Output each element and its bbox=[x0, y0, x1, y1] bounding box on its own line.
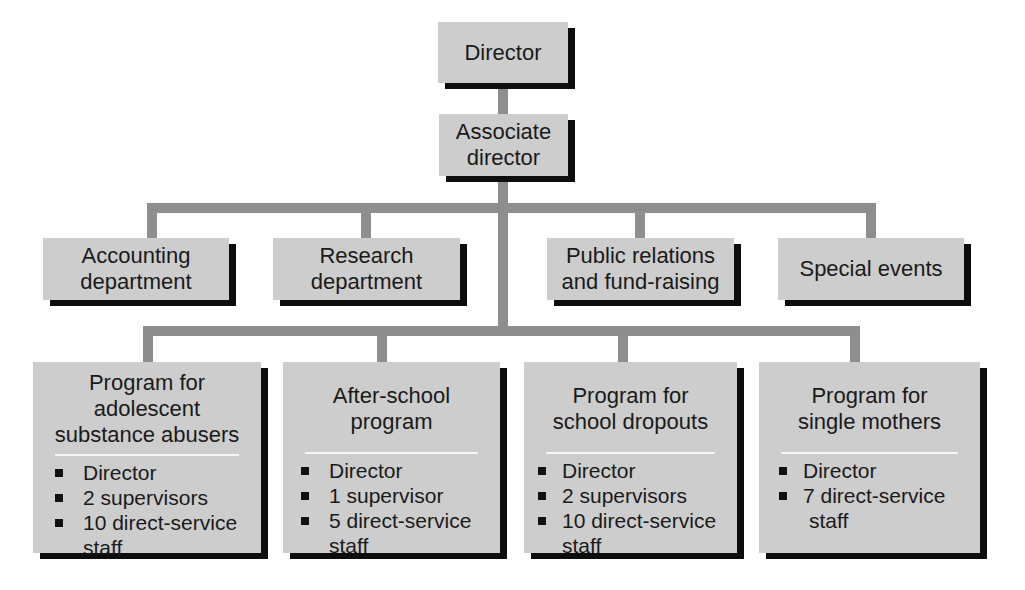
research-label-line1: Research bbox=[319, 243, 413, 269]
staff-text-continued: staff bbox=[803, 509, 848, 532]
accounting-label-line1: Accounting bbox=[82, 243, 191, 269]
program-divider bbox=[55, 454, 239, 456]
staff-text: Director bbox=[329, 459, 403, 482]
connector-departments-bar bbox=[147, 203, 876, 213]
staff-text: Director bbox=[803, 459, 877, 482]
associate-director-label-line1: Associate bbox=[456, 119, 551, 145]
square-bullet-icon bbox=[779, 467, 787, 475]
staff-text: Director bbox=[562, 459, 636, 482]
staff-item: 5 direct-servicestaff bbox=[299, 508, 500, 558]
director-label: Director bbox=[464, 40, 541, 66]
connector-program-afterschool bbox=[377, 326, 387, 363]
connector-program-mothers bbox=[850, 326, 860, 363]
program-title-line: Program for bbox=[530, 383, 731, 409]
staff-text-continued: staff bbox=[329, 534, 368, 557]
staff-text-continued: staff bbox=[562, 534, 601, 557]
staff-text: 10 direct-service bbox=[83, 511, 237, 534]
public-relations-label-line2: and fund-raising bbox=[562, 269, 720, 295]
program-box-single-mothers: Program for single mothers Director 7 di… bbox=[759, 362, 980, 553]
program-divider bbox=[305, 452, 478, 454]
program-title: After-school program bbox=[283, 370, 500, 435]
connector-accounting bbox=[147, 203, 157, 239]
staff-text: 1 supervisor bbox=[329, 484, 443, 507]
square-bullet-icon bbox=[55, 519, 63, 527]
square-bullet-icon bbox=[301, 467, 309, 475]
research-department-box: Research department bbox=[273, 238, 460, 300]
staff-item: Director bbox=[536, 458, 737, 483]
staff-item: 7 direct-servicestaff bbox=[777, 483, 980, 533]
connector-research bbox=[361, 203, 371, 239]
staff-text: 2 supervisors bbox=[83, 486, 208, 509]
staff-text: Director bbox=[83, 461, 157, 484]
staff-item: 2 supervisors bbox=[53, 485, 261, 510]
staff-item: 10 direct-servicestaff bbox=[53, 510, 261, 560]
staff-list: Director 1 supervisor 5 direct-servicest… bbox=[283, 458, 500, 558]
staff-text: 2 supervisors bbox=[562, 484, 687, 507]
connector-public-relations bbox=[635, 203, 645, 239]
square-bullet-icon bbox=[55, 494, 63, 502]
accounting-label-line2: department bbox=[80, 269, 191, 295]
program-box-substance-abusers: Program for adolescent substance abusers… bbox=[33, 362, 261, 553]
program-box-school-dropouts: Program for school dropouts Director 2 s… bbox=[524, 362, 737, 553]
public-relations-box: Public relations and fund-raising bbox=[547, 238, 734, 300]
staff-text-continued: staff bbox=[83, 536, 122, 559]
staff-list: Director 2 supervisors 10 direct-service… bbox=[524, 458, 737, 558]
program-title-line: substance abusers bbox=[39, 422, 255, 448]
public-relations-label-line1: Public relations bbox=[566, 243, 715, 269]
associate-director-label-line2: director bbox=[467, 145, 540, 171]
staff-item: 2 supervisors bbox=[536, 483, 737, 508]
square-bullet-icon bbox=[301, 517, 309, 525]
program-title-line: adolescent bbox=[39, 396, 255, 422]
program-title-line: After-school bbox=[289, 383, 494, 409]
program-title-line: single mothers bbox=[765, 409, 974, 435]
staff-list: Director 7 direct-servicestaff bbox=[759, 458, 980, 533]
accounting-department-box: Accounting department bbox=[43, 238, 229, 300]
connector-program-dropouts bbox=[618, 326, 628, 363]
connector-director-associate bbox=[498, 83, 508, 115]
program-title: Program for adolescent substance abusers bbox=[33, 370, 261, 448]
staff-text: 5 direct-service bbox=[329, 509, 471, 532]
connector-special-events bbox=[866, 203, 876, 239]
director-box: Director bbox=[438, 22, 568, 83]
program-title-line: program bbox=[289, 409, 494, 435]
square-bullet-icon bbox=[538, 492, 546, 500]
square-bullet-icon bbox=[55, 469, 63, 477]
square-bullet-icon bbox=[538, 517, 546, 525]
square-bullet-icon bbox=[538, 467, 546, 475]
program-title-line: Program for bbox=[765, 383, 974, 409]
staff-list: Director 2 supervisors 10 direct-service… bbox=[33, 460, 261, 560]
program-divider bbox=[546, 452, 715, 454]
connector-programs-bar bbox=[143, 326, 860, 336]
program-title: Program for single mothers bbox=[759, 370, 980, 435]
program-box-after-school: After-school program Director 1 supervis… bbox=[283, 362, 500, 553]
square-bullet-icon bbox=[779, 492, 787, 500]
special-events-box: Special events bbox=[778, 238, 964, 300]
staff-text: 10 direct-service bbox=[562, 509, 716, 532]
staff-item: 1 supervisor bbox=[299, 483, 500, 508]
program-title-line: school dropouts bbox=[530, 409, 731, 435]
staff-item: 10 direct-servicestaff bbox=[536, 508, 737, 558]
associate-director-box: Associate director bbox=[439, 114, 568, 176]
program-divider bbox=[781, 452, 958, 454]
staff-text: 7 direct-service bbox=[803, 484, 945, 507]
program-title-line: Program for bbox=[39, 370, 255, 396]
connector-program-substance bbox=[143, 326, 153, 363]
staff-item: Director bbox=[299, 458, 500, 483]
square-bullet-icon bbox=[301, 492, 309, 500]
research-label-line2: department bbox=[311, 269, 422, 295]
staff-item: Director bbox=[777, 458, 980, 483]
staff-item: Director bbox=[53, 460, 261, 485]
program-title: Program for school dropouts bbox=[524, 370, 737, 435]
special-events-label: Special events bbox=[799, 256, 942, 282]
connector-spine bbox=[498, 176, 508, 336]
